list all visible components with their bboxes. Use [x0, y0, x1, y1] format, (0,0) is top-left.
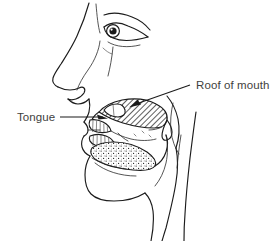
label-roof-of-mouth: Roof of mouth [196, 79, 270, 91]
label-tongue: Tongue [17, 111, 55, 123]
anatomy-diagram: Tongue Roof of mouth [0, 0, 278, 241]
head-profile-illustration: Tongue Roof of mouth [0, 0, 278, 241]
